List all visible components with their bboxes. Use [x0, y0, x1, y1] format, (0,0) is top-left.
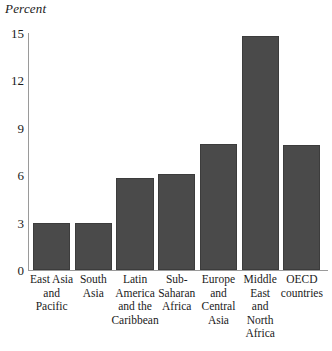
bar [200, 144, 237, 270]
bar [158, 174, 195, 270]
plot-area: 03691215 East AsiaandPacificSouthAsiaLat… [0, 0, 332, 351]
x-axis-label-line: Pacific [22, 300, 82, 314]
x-axis-labels: East AsiaandPacificSouthAsiaLatinAmerica… [0, 273, 332, 351]
x-axis-label: OECDcountries [272, 273, 332, 300]
x-axis-label-line: OECD [272, 273, 332, 287]
x-axis-label-line: Africa [230, 327, 290, 341]
x-axis-label-line: countries [272, 287, 332, 301]
bar [283, 145, 320, 270]
bar [242, 36, 279, 270]
bar [33, 223, 70, 270]
bar [116, 178, 153, 270]
x-axis-label-line: North [230, 314, 290, 328]
bar-chart: Percent 03691215 East AsiaandPacificSout… [0, 0, 332, 351]
x-axis-label-line: and [230, 300, 290, 314]
bar [75, 223, 112, 270]
x-axis-label-line: Caribbean [105, 314, 165, 328]
